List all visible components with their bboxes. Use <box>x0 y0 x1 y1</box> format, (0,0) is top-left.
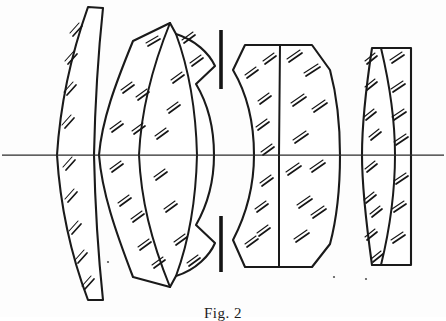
lens-element-3 <box>233 45 340 267</box>
element-4-outline <box>362 48 411 265</box>
lens-element-1 <box>57 7 103 300</box>
element-1-outline <box>57 7 103 300</box>
figure-caption: Fig. 2 <box>0 305 446 321</box>
element-3-outline <box>233 45 340 267</box>
element-3-cement-line <box>279 45 280 267</box>
lens-element-4 <box>362 48 411 265</box>
